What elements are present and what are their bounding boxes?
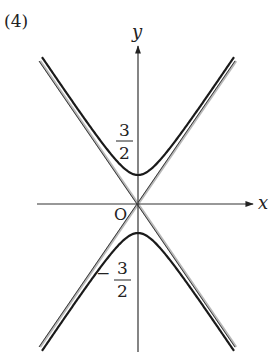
origin-label: O (114, 205, 127, 224)
lower-sign: − (96, 263, 110, 283)
panel-label: (4) (4, 11, 28, 31)
lower-vertex-label: − 3 2 (96, 258, 131, 301)
hyperbola-diagram: (4) y x O 3 2 − 3 2 (0, 0, 276, 361)
upper-vertex-label: 3 2 (116, 120, 133, 163)
x-axis-label: x (258, 192, 268, 213)
lower-numerator: 3 (117, 258, 128, 278)
y-axis-label: y (131, 21, 143, 42)
upper-denominator: 2 (119, 143, 130, 163)
upper-numerator: 3 (119, 120, 130, 140)
lower-denominator: 2 (117, 281, 128, 301)
